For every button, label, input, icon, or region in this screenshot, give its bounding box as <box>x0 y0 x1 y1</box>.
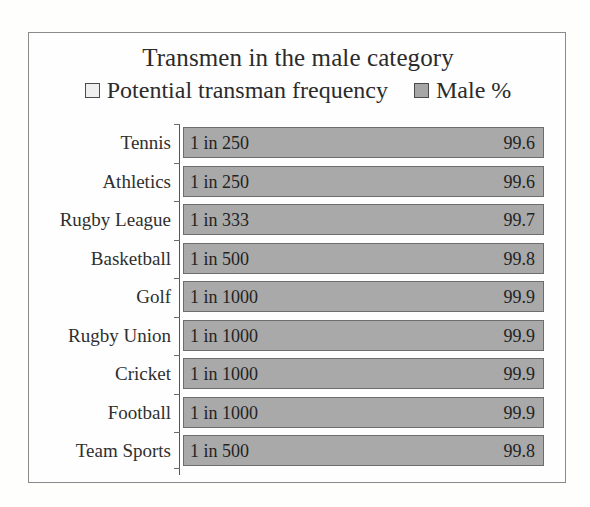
bar-value-label: 99.6 <box>504 167 536 196</box>
legend-item-potential-transman-frequency: Potential transman frequency <box>85 77 388 103</box>
axis-tick-mark <box>174 278 180 279</box>
axis-tick-mark <box>174 468 180 469</box>
axis-tick-mark <box>174 201 180 202</box>
bar-frequency-label: 1 in 1000 <box>190 359 258 388</box>
bar-male-percent: 1 in 100099.9 <box>183 281 544 312</box>
bar-row: Athletics1 in 25099.6 <box>29 166 567 197</box>
legend-label-male-percent: Male % <box>436 77 511 103</box>
bar-male-percent: 1 in 50099.8 <box>183 243 544 274</box>
legend-swatch-icon-light <box>85 83 100 98</box>
bar-male-percent: 1 in 100099.9 <box>183 358 544 389</box>
bar-male-percent: 1 in 100099.9 <box>183 397 544 428</box>
axis-tick-mark <box>174 124 180 125</box>
legend-label-potential-transman-frequency: Potential transman frequency <box>107 77 388 103</box>
axis-tick-mark <box>174 240 180 241</box>
bar-value-label: 99.8 <box>504 436 536 465</box>
bar-chart-figure: Transmen in the male category Potential … <box>0 0 590 507</box>
bar-value-label: 99.8 <box>504 244 536 273</box>
bar-row: Golf1 in 100099.9 <box>29 281 567 312</box>
bar-frequency-label: 1 in 500 <box>190 244 249 273</box>
bar-row: Rugby League1 in 33399.7 <box>29 204 567 235</box>
axis-tick-mark <box>174 432 180 433</box>
bar-value-label: 99.9 <box>504 282 536 311</box>
legend-swatch-icon-dark <box>414 83 429 98</box>
axis-tick-mark <box>174 317 180 318</box>
category-label: Tennis <box>29 127 171 158</box>
bar-row: Tennis1 in 25099.6 <box>29 127 567 158</box>
bar-frequency-label: 1 in 500 <box>190 436 249 465</box>
category-label: Basketball <box>29 243 171 274</box>
bar-value-label: 99.9 <box>504 359 536 388</box>
plot-area: Tennis1 in 25099.6Athletics1 in 25099.6R… <box>29 123 567 478</box>
category-label: Team Sports <box>29 435 171 466</box>
category-label: Golf <box>29 281 171 312</box>
bar-frequency-label: 1 in 1000 <box>190 282 258 311</box>
bar-row: Cricket1 in 100099.9 <box>29 358 567 389</box>
bar-frequency-label: 1 in 1000 <box>190 321 258 350</box>
bar-value-label: 99.7 <box>504 205 536 234</box>
bar-row: Team Sports1 in 50099.8 <box>29 435 567 466</box>
axis-tick-mark <box>174 163 180 164</box>
chart-legend: Potential transman frequency Male % <box>29 77 567 103</box>
bar-male-percent: 1 in 50099.8 <box>183 435 544 466</box>
bar-male-percent: 1 in 100099.9 <box>183 320 544 351</box>
bar-value-label: 99.9 <box>504 321 536 350</box>
category-label: Rugby League <box>29 204 171 235</box>
bar-row: Football1 in 100099.9 <box>29 397 567 428</box>
bar-frequency-label: 1 in 250 <box>190 167 249 196</box>
chart-title: Transmen in the male category <box>29 43 567 72</box>
legend-item-male-percent: Male % <box>414 77 511 103</box>
bar-male-percent: 1 in 25099.6 <box>183 166 544 197</box>
bar-row: Basketball1 in 50099.8 <box>29 243 567 274</box>
axis-tick-mark <box>174 394 180 395</box>
bar-row: Rugby Union1 in 100099.9 <box>29 320 567 351</box>
category-label: Cricket <box>29 358 171 389</box>
bar-male-percent: 1 in 25099.6 <box>183 127 544 158</box>
bar-value-label: 99.6 <box>504 128 536 157</box>
category-label: Rugby Union <box>29 320 171 351</box>
category-label: Football <box>29 397 171 428</box>
bar-frequency-label: 1 in 1000 <box>190 398 258 427</box>
category-label: Athletics <box>29 166 171 197</box>
bar-frequency-label: 1 in 250 <box>190 128 249 157</box>
bar-value-label: 99.9 <box>504 398 536 427</box>
bar-frequency-label: 1 in 333 <box>190 205 249 234</box>
chart-frame: Transmen in the male category Potential … <box>28 32 566 483</box>
bar-male-percent: 1 in 33399.7 <box>183 204 544 235</box>
axis-tick-mark <box>174 355 180 356</box>
